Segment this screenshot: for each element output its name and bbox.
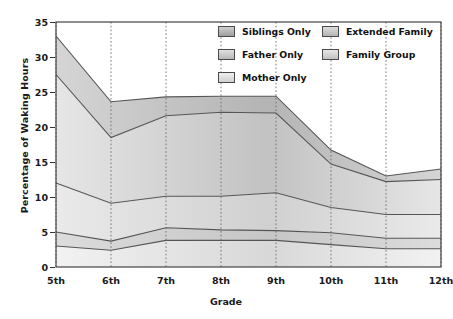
legend-swatch-icon: [218, 26, 235, 37]
y-axis-tick-label: 0: [14, 262, 48, 273]
y-axis-tick-label: 20: [14, 122, 48, 133]
x-axis-tick-label: 8th: [212, 275, 230, 286]
legend-item-label: Family Group: [346, 49, 415, 60]
y-axis-tick-mark: [50, 197, 55, 198]
x-axis-tick-label: 6th: [102, 275, 120, 286]
chart-legend: Siblings OnlyFather OnlyMother Only Exte…: [218, 20, 436, 89]
legend-column-left: Siblings OnlyFather OnlyMother Only: [218, 20, 314, 89]
x-axis-tick-label: 9th: [267, 275, 285, 286]
y-axis-tick-label: 25: [14, 87, 48, 98]
legend-item-label: Father Only: [242, 49, 303, 60]
y-axis-tick-mark: [50, 92, 55, 93]
legend-item-label: Extended Family: [346, 26, 433, 37]
y-axis-tick-mark: [50, 57, 55, 58]
y-axis-tick-mark: [50, 127, 55, 128]
x-axis-tick-label: 10th: [319, 275, 344, 286]
legend-item-label: Siblings Only: [242, 26, 311, 37]
legend-swatch-icon: [322, 49, 339, 60]
y-axis-tick-label: 30: [14, 52, 48, 63]
legend-item[interactable]: Family Group: [322, 43, 436, 66]
y-axis-tick-mark: [50, 22, 55, 23]
x-axis-tick-label: 7th: [157, 275, 175, 286]
y-axis-tick-label: 35: [14, 17, 48, 28]
y-axis-tick-mark: [50, 232, 55, 233]
legend-swatch-icon: [322, 26, 339, 37]
y-axis-tick-label: 15: [14, 157, 48, 168]
y-axis-tick-mark: [50, 267, 55, 268]
y-axis-tick-label: 5: [14, 227, 48, 238]
legend-column-right: Extended FamilyFamily Group: [322, 20, 436, 89]
y-axis-tick-label: 10: [14, 192, 48, 203]
legend-item-label: Mother Only: [242, 72, 307, 83]
x-axis-tick-label: 5th: [47, 275, 65, 286]
legend-item[interactable]: Extended Family: [322, 20, 436, 43]
legend-swatch-icon: [218, 72, 235, 83]
x-axis-tick-label: 11th: [374, 275, 399, 286]
y-axis-tick-mark: [50, 162, 55, 163]
legend-swatch-icon: [218, 49, 235, 60]
x-axis-tick-label: 12th: [429, 275, 453, 286]
legend-item[interactable]: Father Only: [218, 43, 314, 66]
legend-item[interactable]: Siblings Only: [218, 20, 314, 43]
legend-item[interactable]: Mother Only: [218, 66, 314, 89]
